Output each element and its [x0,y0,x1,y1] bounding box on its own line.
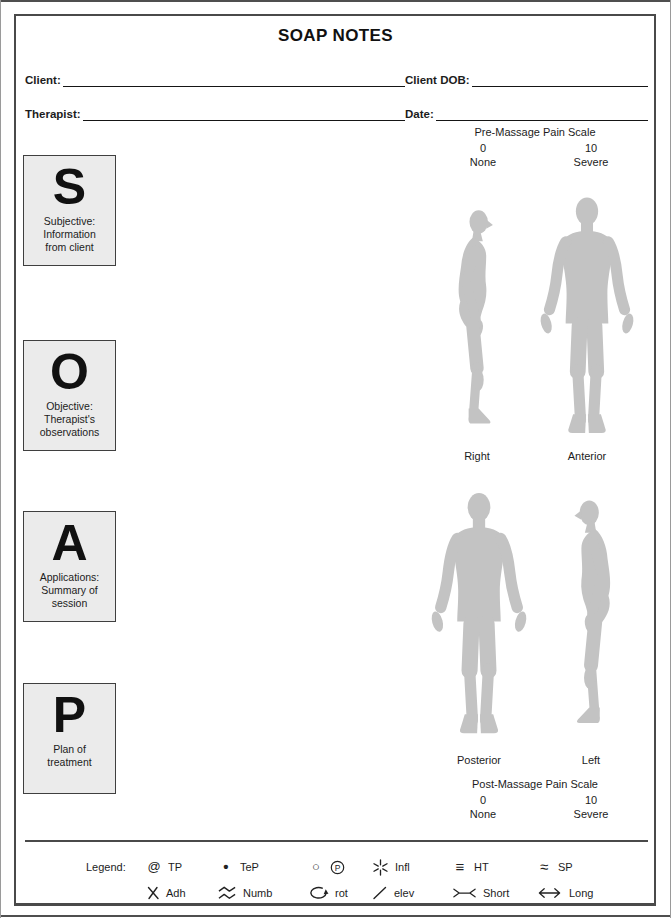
legend-item-tp: @ TP [146,854,218,880]
therapist-row: Therapist: Date: [25,104,648,121]
dot-icon: • [218,859,234,875]
pre-pain-min-label: None [448,155,518,169]
post-pain-max-label: Severe [556,807,626,821]
approx-icon: ≈ [536,859,552,875]
figure-label-left: Left [543,754,639,766]
legend-label-elev: elev [394,887,414,899]
circled-p-icon: P [330,860,345,875]
legend-item-circle-p: ○ P [308,854,372,880]
legend-item-ht: ≡ HT [452,854,536,880]
pre-pain-min-value: 0 [448,141,518,155]
post-pain-scale-title: Post-Massage Pain Scale [425,778,645,790]
legend-label-long: Long [569,887,593,899]
soap-desc-plan: Plan of treatment [24,743,115,769]
long-arrow-icon [536,887,563,899]
client-dob-input-line[interactable] [472,69,648,87]
therapist-input-line[interactable] [83,103,405,121]
figure-label-posterior: Posterior [427,754,531,766]
body-figure-anterior[interactable] [536,181,638,453]
legend-item-elev: elev [372,880,452,906]
legend-label-tep: TeP [240,861,259,873]
soap-desc-applications: Applications: Summary of session [24,571,115,610]
soap-letter-a: A [24,520,115,566]
circle-icon: ○ [308,859,324,875]
date-group: Date: [405,104,648,121]
legend: Legend: @ TP • TeP ○ P Infl [86,854,646,906]
post-pain-min-value: 0 [448,793,518,807]
legend-item-long: Long [536,880,646,906]
figure-label-anterior: Anterior [536,450,638,462]
legend-item-numb: Numb [218,880,308,906]
legend-label-infl: Infl [395,861,410,873]
legend-item-tep: • TeP [218,854,308,880]
rotation-arrow-icon [308,885,329,901]
slash-icon [372,886,388,900]
at-icon: @ [146,859,162,875]
post-pain-max-value: 10 [556,793,626,807]
therapist-label: Therapist: [25,107,83,121]
legend-item-rot: rot [308,880,372,906]
body-figure-left-lateral[interactable] [543,475,639,753]
date-input-line[interactable] [436,103,648,121]
soap-letter-o: O [24,349,115,395]
legend-item-short: Short [452,880,536,906]
legend-label-tp: TP [168,861,182,873]
date-label: Date: [405,107,436,121]
page-edge [0,915,671,917]
client-dob-group: Client DOB: [405,70,648,87]
body-figure-right-lateral[interactable] [431,186,523,452]
legend-item-adh: Adh [146,880,218,906]
zigzag-icon [218,885,237,901]
pre-pain-scale-min: 0 None [448,141,518,169]
legend-label-numb: Numb [243,887,272,899]
legend-item-infl: Infl [372,854,452,880]
soap-letter-p: P [24,692,115,738]
pre-pain-scale-title: Pre-Massage Pain Scale [425,126,645,138]
legend-spacer [86,880,146,906]
soap-notes-form: SOAP NOTES Client: Client DOB: Therapist… [0,0,671,918]
x-mark-icon [146,886,160,900]
legend-label-short: Short [483,887,509,899]
legend-divider [25,840,648,842]
legend-heading: Legend: [86,854,146,880]
soap-desc-subjective: Subjective: Information from client [24,215,115,254]
post-pain-min-label: None [448,807,518,821]
soap-box-plan: P Plan of treatment [23,683,116,794]
client-row: Client: Client DOB: [25,70,648,87]
page-edge [0,0,1,918]
client-input-line[interactable] [63,69,405,87]
soap-box-subjective: S Subjective: Information from client [23,155,116,266]
pre-pain-scale-max: 10 Severe [556,141,626,169]
triple-bar-icon: ≡ [452,859,468,875]
soap-box-applications: A Applications: Summary of session [23,511,116,622]
body-figure-posterior[interactable] [427,479,531,751]
legend-label-ht: HT [474,861,489,873]
post-pain-scale-max: 10 Severe [556,793,626,821]
legend-label-sp: SP [558,861,573,873]
figure-label-right: Right [431,450,523,462]
legend-label-rot: rot [335,887,348,899]
page-title: SOAP NOTES [0,26,671,46]
post-pain-scale-min: 0 None [448,793,518,821]
client-label: Client: [25,73,63,87]
soap-desc-objective: Objective: Therapist's observations [24,400,115,439]
svg-text:P: P [335,862,341,872]
pre-pain-max-value: 10 [556,141,626,155]
soap-box-objective: O Objective: Therapist's observations [23,340,116,451]
compress-arrows-icon [452,887,477,899]
client-dob-label: Client DOB: [405,73,472,87]
page-edge [0,0,671,2]
soap-letter-s: S [24,164,115,210]
inflammation-star-icon [372,859,389,876]
legend-item-sp: ≈ SP [536,854,646,880]
pre-pain-max-label: Severe [556,155,626,169]
legend-label-adh: Adh [166,887,186,899]
